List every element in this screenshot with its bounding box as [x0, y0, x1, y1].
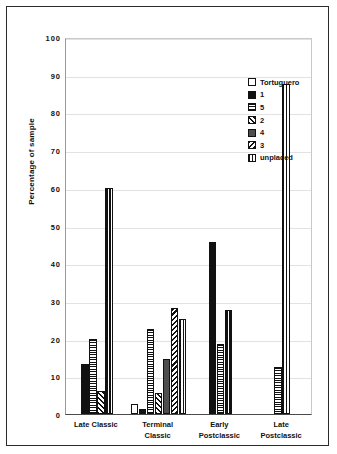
- chart-legend: Tortuguero15243unplaced: [248, 76, 299, 164]
- y-tick-100: 100: [35, 34, 61, 43]
- legend-label: 1: [260, 90, 264, 99]
- legend-label: 4: [260, 128, 264, 137]
- bar-group: [190, 39, 252, 414]
- legend-swatch-icon: [248, 129, 256, 137]
- bar-group: [128, 39, 190, 414]
- y-tick-60: 60: [35, 185, 61, 194]
- bar-2-0: [97, 391, 104, 414]
- x-label-line: Late Classic: [65, 419, 127, 430]
- legend-item-tortuguero: Tortuguero: [248, 76, 299, 89]
- legend-label: Tortuguero: [260, 78, 299, 87]
- x-axis-tick-labels: Late ClassicTerminalClassicEarlyPostclas…: [65, 419, 312, 453]
- bar-unplaced-0: [105, 188, 112, 414]
- legend-label: 2: [260, 116, 264, 125]
- legend-swatch-icon: [248, 154, 256, 162]
- bar-2-1: [155, 393, 162, 414]
- x-label-1: TerminalClassic: [127, 419, 189, 441]
- x-label-line: Postclassic: [189, 430, 251, 441]
- x-label-0: Late Classic: [65, 419, 127, 430]
- bar-5-2: [217, 344, 224, 414]
- x-label-line: Early: [189, 419, 251, 430]
- x-label-2: EarlyPostclassic: [189, 419, 251, 441]
- bar-5-0: [89, 339, 96, 414]
- x-label-line: Postclassic: [250, 430, 312, 441]
- legend-item-unplaced: unplaced: [248, 152, 299, 165]
- x-label-line: Classic: [127, 430, 189, 441]
- y-tick-50: 50: [35, 223, 61, 232]
- bar-unplaced-1: [179, 319, 186, 414]
- y-tick-30: 30: [35, 298, 61, 307]
- y-tick-80: 80: [35, 109, 61, 118]
- x-label-line: Terminal: [127, 419, 189, 430]
- plot-area: Tortuguero15243unplaced: [65, 38, 312, 415]
- legend-swatch-icon: [248, 78, 256, 86]
- y-tick-10: 10: [35, 373, 61, 382]
- legend-swatch-icon: [248, 103, 256, 111]
- legend-label: 5: [260, 103, 264, 112]
- y-tick-20: 20: [35, 336, 61, 345]
- bar-5-3: [274, 367, 281, 414]
- bar-1-0: [81, 364, 88, 414]
- legend-item-4: 4: [248, 126, 299, 139]
- x-label-line: Late: [250, 419, 312, 430]
- bar-5-1: [147, 329, 154, 414]
- y-axis-tick-labels: 1009080706050403020100: [29, 38, 61, 415]
- bar-unplaced-2: [225, 310, 232, 414]
- legend-label: unplaced: [260, 153, 293, 162]
- y-tick-90: 90: [35, 72, 61, 81]
- bar-3-1: [171, 308, 178, 414]
- legend-label: 3: [260, 141, 264, 150]
- chart-frame: Percentage of sample 1009080706050403020…: [6, 6, 329, 446]
- x-label-3: LatePostclassic: [250, 419, 312, 441]
- legend-item-1: 1: [248, 89, 299, 102]
- legend-swatch-icon: [248, 91, 256, 99]
- legend-swatch-icon: [248, 141, 256, 149]
- legend-item-2: 2: [248, 114, 299, 127]
- bar-tortuguero-1: [131, 404, 138, 414]
- y-tick-40: 40: [35, 260, 61, 269]
- bar-1-1: [139, 409, 146, 414]
- legend-swatch-icon: [248, 116, 256, 124]
- bar-4-1: [163, 359, 170, 414]
- bar-group: [66, 39, 128, 414]
- y-tick-0: 0: [35, 411, 61, 420]
- bar-1-2: [209, 242, 216, 414]
- legend-item-5: 5: [248, 101, 299, 114]
- legend-item-3: 3: [248, 139, 299, 152]
- y-tick-70: 70: [35, 147, 61, 156]
